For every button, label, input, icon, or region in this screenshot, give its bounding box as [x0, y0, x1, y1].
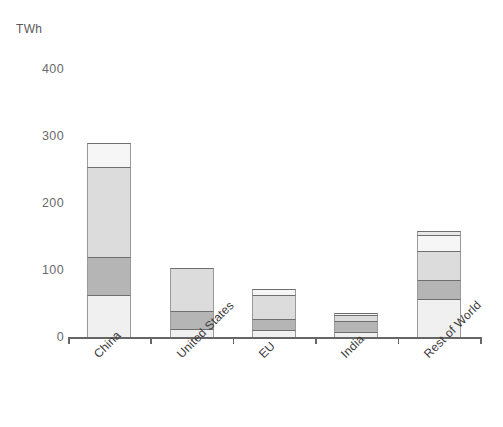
y-axis-tick-label: 300 — [20, 129, 64, 143]
bar-segment — [417, 235, 461, 251]
x-axis-tick-mark — [150, 337, 152, 344]
bar-segment — [170, 268, 214, 311]
bar-united-states[interactable] — [170, 268, 214, 337]
bar-segment — [252, 330, 296, 337]
bar-segment — [87, 295, 131, 337]
bar-segment — [170, 329, 214, 337]
x-axis-tick-mark — [233, 337, 235, 344]
bar-china[interactable] — [87, 143, 131, 337]
bar-segment — [170, 311, 214, 329]
bar-segment — [252, 295, 296, 319]
x-axis-label-eu: EU — [256, 339, 278, 361]
bar-segment — [417, 280, 461, 299]
x-axis-line — [68, 337, 480, 339]
bar-rest-of-world[interactable] — [417, 231, 461, 337]
y-axis-tick-label: 0 — [20, 330, 64, 344]
stacked-bar-chart: TWh 0100200300400 ChinaUnited StatesEUIn… — [0, 0, 503, 427]
y-axis-tick-label: 100 — [20, 263, 64, 277]
bar-segment — [417, 251, 461, 280]
bar-eu[interactable] — [252, 289, 296, 337]
y-axis-tick-labels: 0100200300400 — [0, 0, 64, 427]
x-axis-tick-mark — [315, 337, 317, 344]
y-axis-tick-label: 400 — [20, 62, 64, 76]
x-axis-tick-mark — [398, 337, 400, 344]
plot-area — [68, 40, 480, 337]
x-axis-tick-mark — [68, 337, 70, 344]
x-axis-tick-mark — [480, 337, 482, 344]
bar-segment — [87, 257, 131, 295]
y-axis-tick-label: 200 — [20, 196, 64, 210]
bar-segment — [87, 143, 131, 167]
bar-segment — [252, 319, 296, 330]
bar-india[interactable] — [334, 313, 378, 337]
bar-segment — [87, 167, 131, 257]
bar-segment — [417, 299, 461, 337]
bar-segment — [334, 321, 378, 332]
